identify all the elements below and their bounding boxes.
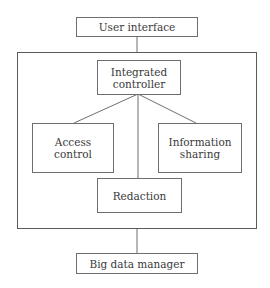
access-control-node: Access control: [32, 123, 114, 173]
big-data-manager-node: Big data manager: [76, 253, 198, 274]
information-sharing-node: Information sharing: [158, 123, 242, 173]
integrated-controller-label: Integrated controller: [111, 66, 168, 90]
user-interface-node: User interface: [76, 17, 198, 37]
redaction-node: Redaction: [97, 178, 182, 213]
information-sharing-label: Information sharing: [169, 136, 232, 160]
user-interface-label: User interface: [99, 21, 176, 33]
integrated-controller-node: Integrated controller: [97, 60, 181, 95]
redaction-label: Redaction: [113, 190, 167, 202]
big-data-manager-label: Big data manager: [89, 258, 184, 270]
access-control-label: Access control: [54, 136, 92, 160]
